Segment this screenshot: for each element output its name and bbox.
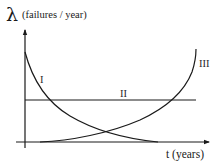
curve-i-decreasing-rate xyxy=(25,52,158,142)
curve-label-iii: III xyxy=(199,58,210,69)
curve-label-i: I xyxy=(40,74,44,85)
curve-label-ii: II xyxy=(120,88,127,99)
curve-iii-increasing-rate xyxy=(40,49,196,142)
x-axis-label: t (years) xyxy=(166,148,204,160)
bathtub-curve-diagram: I II III xyxy=(0,0,224,167)
